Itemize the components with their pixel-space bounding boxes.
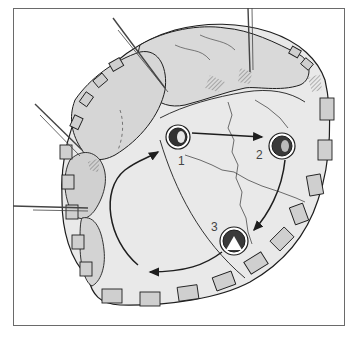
marker-label-2: 2 — [256, 148, 263, 162]
orifice-1 — [166, 125, 190, 149]
surgical-illustration — [0, 0, 357, 337]
marker-label-3: 3 — [211, 220, 218, 234]
orifice-3 — [220, 227, 248, 255]
illustration-canvas: 1 2 3 — [0, 0, 357, 337]
marker-label-1: 1 — [178, 154, 185, 168]
orifice-2 — [269, 133, 295, 159]
